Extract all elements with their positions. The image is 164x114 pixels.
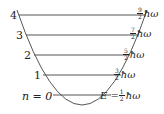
level-label-4: 4 <box>10 10 17 21</box>
energy-label-2: 52 ħω <box>123 48 144 61</box>
level-label-0: n = 0 <box>22 91 52 102</box>
energy-label-0: E = 12 ħω <box>100 89 140 102</box>
energy-label-4: 92 ħω <box>137 7 158 20</box>
harmonic-oscillator-diagram: 4 3 2 1 n = 0 92 ħω 72 ħω 52 ħω 32 ħω E … <box>0 0 164 114</box>
energy-label-3: 72 ħω <box>130 27 151 40</box>
energy-label-1: 32 ħω <box>114 68 135 81</box>
level-label-2: 2 <box>24 50 31 61</box>
level-label-1: 1 <box>34 70 41 81</box>
level-label-3: 3 <box>16 30 23 41</box>
